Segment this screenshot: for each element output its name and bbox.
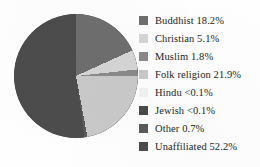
legend-swatch-buddhist: [139, 16, 148, 25]
pie-circle: [14, 14, 138, 138]
legend-swatch-folk-religion: [139, 70, 148, 79]
legend-swatch-jewish: [139, 106, 148, 115]
legend-label-folk-religion: Folk religion 21.9%: [155, 69, 241, 80]
legend-item-folk-religion[interactable]: Folk religion 21.9%: [139, 65, 260, 83]
legend-label-other: Other 0.7%: [155, 123, 204, 134]
legend-item-jewish[interactable]: Jewish <0.1%: [139, 101, 260, 119]
legend-swatch-muslim: [139, 52, 148, 61]
legend-swatch-unaffiliated: [139, 142, 148, 151]
pie-chart-figure: Buddhist 18.2% Christian 5.1% Muslim 1.8…: [0, 0, 260, 167]
legend-swatch-other: [139, 124, 148, 133]
legend-item-christian[interactable]: Christian 5.1%: [139, 29, 260, 47]
legend-label-buddhist: Buddhist 18.2%: [155, 15, 224, 26]
pie-slices: [14, 14, 138, 138]
legend-swatch-hindu: [139, 88, 148, 97]
legend-label-unaffiliated: Unaffiliated 52.2%: [155, 141, 237, 152]
legend-label-christian: Christian 5.1%: [155, 33, 219, 44]
legend-label-muslim: Muslim 1.8%: [155, 51, 213, 62]
legend-item-muslim[interactable]: Muslim 1.8%: [139, 47, 260, 65]
legend-item-buddhist[interactable]: Buddhist 18.2%: [139, 11, 260, 29]
chart-legend: Buddhist 18.2% Christian 5.1% Muslim 1.8…: [139, 11, 260, 155]
legend-item-other[interactable]: Other 0.7%: [139, 119, 260, 137]
legend-label-hindu: Hindu <0.1%: [155, 87, 213, 98]
legend-swatch-christian: [139, 34, 148, 43]
legend-item-unaffiliated[interactable]: Unaffiliated 52.2%: [139, 137, 260, 155]
legend-label-jewish: Jewish <0.1%: [155, 105, 215, 116]
pie-chart-area: [14, 14, 138, 153]
legend-item-hindu[interactable]: Hindu <0.1%: [139, 83, 260, 101]
